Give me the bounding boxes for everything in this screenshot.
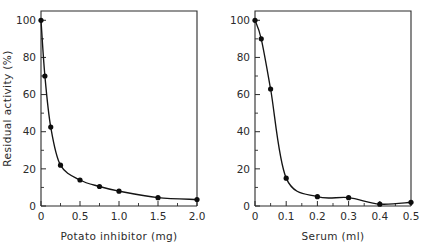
data-point-marker xyxy=(377,202,382,207)
y-tick-label: 60 xyxy=(237,88,250,100)
data-point-marker xyxy=(77,177,82,182)
x-axis-title-right: Serum (ml) xyxy=(301,230,364,242)
data-point-marker xyxy=(155,195,160,200)
data-point-marker xyxy=(315,194,320,199)
x-tick-label: 0 xyxy=(38,210,45,222)
axis-frame-right xyxy=(255,11,411,206)
y-tick-label: 80 xyxy=(237,51,250,63)
data-point-marker xyxy=(259,36,264,41)
data-curve-left xyxy=(41,20,197,199)
figure-root: 00.51.01.52.0 020406080100 Potato inhibi… xyxy=(0,0,429,252)
data-point-marker xyxy=(194,197,199,202)
x-tick-label: 1.0 xyxy=(111,210,128,222)
chart-svg-right: 00.10.20.30.40.5 020406080100 Serum (ml) xyxy=(214,0,429,252)
y-tick-label: 20 xyxy=(23,163,36,175)
y-tick-label: 40 xyxy=(23,125,36,137)
y-tick-label: 0 xyxy=(29,200,36,212)
data-point-marker xyxy=(97,184,102,189)
data-point-marker xyxy=(408,200,413,205)
y-tick-label: 40 xyxy=(237,125,250,137)
y-axis-title-left: Residual activity (%) xyxy=(1,50,13,166)
data-point-marker xyxy=(346,195,351,200)
data-point-marker xyxy=(38,18,43,23)
x-tick-label: 2.0 xyxy=(189,210,206,222)
x-tick-label: 0 xyxy=(252,210,259,222)
x-tick-label: 0.5 xyxy=(72,210,89,222)
chart-panel-potato-inhibitor: 00.51.01.52.0 020406080100 Potato inhibi… xyxy=(0,0,215,252)
x-tick-label: 0.2 xyxy=(309,210,326,222)
x-tick-labels-right: 00.10.20.30.40.5 xyxy=(252,210,420,222)
data-point-marker xyxy=(116,189,121,194)
chart-svg-left: 00.51.01.52.0 020406080100 Potato inhibi… xyxy=(0,0,215,252)
data-curve-right xyxy=(255,20,411,204)
y-tick-label: 0 xyxy=(243,200,250,212)
axis-frame-left xyxy=(41,11,197,206)
data-point-marker xyxy=(268,86,273,91)
data-markers-left xyxy=(38,18,199,202)
data-markers-right xyxy=(252,18,413,207)
y-tick-label: 20 xyxy=(237,163,250,175)
data-point-marker xyxy=(48,124,53,129)
data-point-marker xyxy=(58,163,63,168)
y-tick-label: 60 xyxy=(23,88,36,100)
data-point-marker xyxy=(284,176,289,181)
x-tick-label: 0.4 xyxy=(371,210,388,222)
y-tick-label: 100 xyxy=(230,14,250,26)
x-tick-label: 1.5 xyxy=(150,210,167,222)
x-tick-labels-left: 00.51.01.52.0 xyxy=(38,210,206,222)
x-tick-label: 0.3 xyxy=(340,210,357,222)
axis-ticks-left xyxy=(41,20,197,206)
x-tick-label: 0.5 xyxy=(403,210,420,222)
y-tick-label: 80 xyxy=(23,51,36,63)
data-point-marker xyxy=(42,73,47,78)
chart-panel-serum: 00.10.20.30.40.5 020406080100 Serum (ml) xyxy=(214,0,429,252)
y-tick-labels-right: 020406080100 xyxy=(230,14,250,212)
x-tick-label: 0.1 xyxy=(278,210,295,222)
x-axis-title-left: Potato inhibitor (mg) xyxy=(60,230,177,242)
data-point-marker xyxy=(252,18,257,23)
y-tick-label: 100 xyxy=(16,14,36,26)
y-tick-labels-left: 020406080100 xyxy=(16,14,36,212)
axis-ticks-right xyxy=(255,20,411,206)
